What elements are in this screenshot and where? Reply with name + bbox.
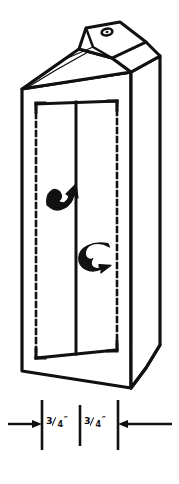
figure-root: 34″ 34″ <box>0 0 179 484</box>
dimension-label-right: 34″ <box>84 412 106 428</box>
right-side-panel <box>131 56 160 388</box>
dimension-left-unit: ″ <box>64 415 68 425</box>
dimension-left-denominator: 4 <box>57 420 62 429</box>
carton-body <box>22 56 160 388</box>
dimension-right-unit: ″ <box>102 415 106 425</box>
dimension-label-left: 34″ <box>46 412 68 428</box>
dimension-arrow-left-head <box>32 420 42 428</box>
dimension-arrow-right-head <box>118 420 128 428</box>
dimension-right-denominator: 4 <box>95 420 100 429</box>
